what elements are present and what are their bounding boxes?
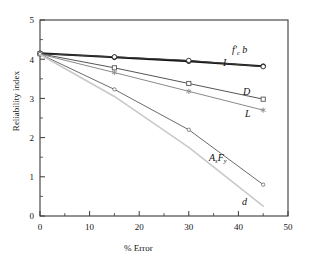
x-tick-label: 40 <box>234 222 244 232</box>
chart-figure: 01020304050012345 Reliability index % Er… <box>0 0 310 262</box>
series-d <box>40 54 263 206</box>
y-tick-label: 4 <box>30 55 35 65</box>
label-f: F <box>218 152 224 163</box>
y-tick-label: 5 <box>30 15 35 25</box>
series-label-d-depth: d <box>242 196 247 207</box>
x-tick-label: 50 <box>284 222 294 232</box>
series-label-fcb-tail: b <box>240 44 248 55</box>
series-label-fcb: f′c b <box>232 44 247 55</box>
series-label-d-dead: D <box>243 86 250 97</box>
series-label-i: I <box>223 57 226 68</box>
x-tick-label: 30 <box>184 222 194 232</box>
y-tick-label: 0 <box>30 211 35 221</box>
label-f-subscript: y <box>224 157 227 164</box>
data-series-group <box>38 51 266 206</box>
y-tick-label: 1 <box>30 172 35 182</box>
y-axis-title: Reliability index <box>11 61 21 141</box>
series-label-l: L <box>245 108 251 119</box>
series-l <box>38 52 266 113</box>
x-axis-title: % Error <box>124 243 153 253</box>
plot-canvas: 01020304050012345 <box>0 0 310 262</box>
series-label-fcb-subscript: c <box>237 49 240 56</box>
y-tick-label: 3 <box>30 94 35 104</box>
x-tick-label: 10 <box>85 222 95 232</box>
x-tick-label: 20 <box>135 222 145 232</box>
series-label-asfy: AsFy <box>209 152 227 163</box>
y-tick-label: 2 <box>30 133 35 143</box>
label-a-subscript: s <box>215 157 218 164</box>
x-tick-label: 0 <box>38 222 43 232</box>
